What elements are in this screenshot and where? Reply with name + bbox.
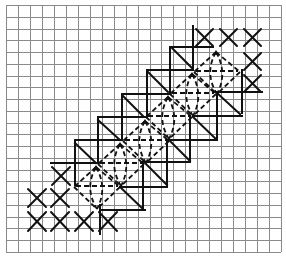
peak-marker-icon <box>93 165 99 170</box>
cross-stitch-icon <box>28 189 46 207</box>
backstitch-step <box>98 94 147 140</box>
cross-stitch-icon <box>75 212 93 231</box>
dashed-lens-motif <box>74 165 120 209</box>
cross-stitch-icon <box>244 53 261 70</box>
backstitch-diagonal <box>217 93 240 114</box>
backstitch-diagonal <box>148 72 168 92</box>
backstitch-diagonal <box>123 96 143 116</box>
cross-stitch-icon <box>220 29 237 46</box>
backstitch-step <box>168 116 217 162</box>
cross-stitch-icon <box>28 212 46 231</box>
backstitch-diagonal <box>75 143 96 163</box>
cross-stitch-icon <box>244 75 261 92</box>
cross-stitch-icon <box>99 212 117 231</box>
backstitch-diagonal <box>172 48 192 68</box>
backstitch-diagonal <box>193 117 216 139</box>
backstitch-diagonal <box>170 141 190 161</box>
backstitch-step <box>120 162 167 210</box>
backstitch-diagonal <box>120 187 142 208</box>
cross-stitch-icon <box>51 212 69 231</box>
backstitch-step <box>75 117 122 163</box>
cross-stitch-icon <box>52 167 70 185</box>
backstitch-step <box>147 47 193 94</box>
peak-marker-icon <box>165 95 171 100</box>
backstitch-step <box>193 92 242 140</box>
dashed-lens-motif <box>170 72 216 116</box>
cross-stitch-icon <box>51 189 69 207</box>
pattern-chart <box>0 0 286 259</box>
peak-marker-icon <box>117 142 123 147</box>
peak-marker-icon <box>213 50 219 55</box>
backstitch-step <box>122 70 170 117</box>
dashed-lens-motif <box>146 95 192 139</box>
dashed-lens-motif <box>98 142 144 186</box>
stitch-pattern <box>0 0 286 259</box>
peak-marker-icon <box>142 119 148 124</box>
backstitch-step <box>172 26 213 70</box>
cross-stitch-icon <box>244 29 261 46</box>
cross-stitch-icon <box>196 29 213 46</box>
backstitch-diagonal <box>98 120 120 140</box>
dashed-lens-motif <box>123 119 169 163</box>
dashed-lens-motif <box>194 50 240 94</box>
backstitch-diagonal <box>145 163 167 185</box>
